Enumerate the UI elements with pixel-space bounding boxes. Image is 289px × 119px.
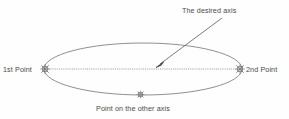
diagram-canvas <box>0 0 289 119</box>
callout-arrow-line <box>160 18 222 64</box>
node-snap-star-icon-first-point <box>40 64 50 74</box>
label-first-point: 1st Point <box>3 65 32 74</box>
ellipse-axis-diagram: The desired axis 1st Point 2nd Point Poi… <box>0 0 289 119</box>
label-second-point: 2nd Point <box>246 65 277 74</box>
label-desired-axis: The desired axis <box>182 6 236 15</box>
node-snap-star-icon-second-point <box>235 64 245 74</box>
label-point-on-other-axis: Point on the other axis <box>96 104 170 113</box>
node-snap-star-icon-other-axis-point <box>137 91 145 99</box>
callout-arrowhead-icon <box>156 62 164 68</box>
